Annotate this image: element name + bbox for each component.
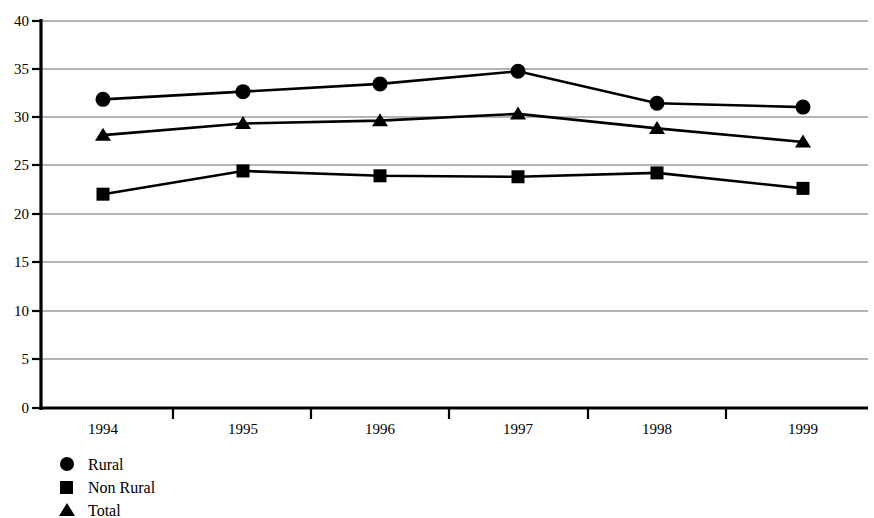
y-tick-label-25: 25 <box>14 157 29 173</box>
x-tick-labels: 1994 1995 1996 1997 1998 1999 <box>88 421 818 437</box>
series-line-1 <box>103 171 803 194</box>
line-chart: 40 35 30 25 20 15 10 5 0 1994 1995 1996 … <box>0 0 874 518</box>
chart-canvas: 40 35 30 25 20 15 10 5 0 1994 1995 1996 … <box>0 0 874 518</box>
data-point-circle-1996 <box>373 76 388 91</box>
data-point-square-1995 <box>237 164 250 177</box>
y-tick-labels: 40 35 30 25 20 15 10 5 0 <box>14 13 29 416</box>
data-point-circle-1994 <box>96 92 111 107</box>
data-point-circle-1998 <box>650 96 665 111</box>
series-rural <box>96 64 811 115</box>
data-point-circle-1997 <box>511 64 526 79</box>
x-tick-label-1994: 1994 <box>88 421 119 437</box>
y-tick-label-35: 35 <box>14 61 29 77</box>
data-point-square-1997 <box>512 170 525 183</box>
x-tick-label-1998: 1998 <box>642 421 672 437</box>
data-point-circle-1995 <box>236 84 251 99</box>
x-tick-label-1996: 1996 <box>365 421 396 437</box>
square-marker-icon <box>60 481 73 494</box>
x-axis <box>39 408 868 419</box>
legend: Rural Non Rural Total <box>59 456 156 518</box>
y-tick-label-30: 30 <box>14 109 29 125</box>
x-tick-label-1995: 1995 <box>228 421 258 437</box>
circle-marker-icon <box>60 457 74 471</box>
y-tick-label-0: 0 <box>22 400 30 416</box>
y-tick-label-40: 40 <box>14 13 29 29</box>
series-line-0 <box>103 71 803 107</box>
x-tick-label-1999: 1999 <box>788 421 818 437</box>
y-tick-label-20: 20 <box>14 206 29 222</box>
data-point-square-1998 <box>651 166 664 179</box>
legend-label-rural: Rural <box>88 456 124 473</box>
legend-label-non-rural: Non Rural <box>88 479 156 496</box>
y-tick-label-5: 5 <box>22 351 30 367</box>
triangle-marker-icon <box>59 503 75 516</box>
data-point-circle-1999 <box>796 100 811 115</box>
y-tick-label-10: 10 <box>14 303 29 319</box>
data-point-square-1999 <box>797 182 810 195</box>
x-tick-label-1997: 1997 <box>503 421 534 437</box>
series-non-rural <box>97 164 810 200</box>
series-line-2 <box>103 114 803 142</box>
y-gridlines <box>41 21 868 359</box>
data-point-square-1994 <box>97 188 110 201</box>
legend-label-total: Total <box>88 502 121 518</box>
y-tick-label-15: 15 <box>14 254 29 270</box>
series-total <box>95 106 811 147</box>
data-point-square-1996 <box>374 169 387 182</box>
y-axis <box>32 19 41 410</box>
data-series-layer <box>95 64 811 201</box>
